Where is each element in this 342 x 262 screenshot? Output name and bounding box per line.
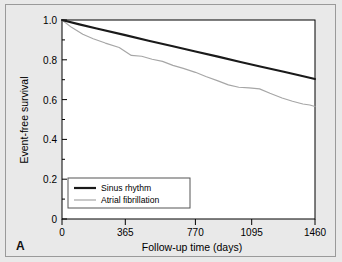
x-tick-label: 365 xyxy=(117,227,134,238)
y-tick-label: 1.0 xyxy=(43,15,57,26)
panel-label: A xyxy=(16,239,25,253)
y-axis-title: Event-free survival xyxy=(18,77,30,164)
y-tick-label: 0.2 xyxy=(43,174,57,185)
y-axis-tick-labels: 1.0 0.8 0.6 0.4 0.2 0 xyxy=(43,15,57,225)
y-tick-label: 0.4 xyxy=(43,134,57,145)
y-tick-label: 0.8 xyxy=(43,55,57,66)
legend-label-sinus-rhythm: Sinus rhythm xyxy=(101,183,151,193)
x-tick-label: 1460 xyxy=(304,227,327,238)
chart-legend: Sinus rhythm Atrial fibrillation xyxy=(68,178,190,208)
y-tick-label: 0 xyxy=(51,214,57,225)
x-tick-label: 0 xyxy=(59,227,65,238)
x-axis-tick-labels: 0 365 770 1095 1460 xyxy=(59,227,326,238)
survival-chart-svg: 1.0 0.8 0.6 0.4 0.2 0 Event-free surviva… xyxy=(0,0,342,262)
x-tick-label: 1095 xyxy=(241,227,264,238)
chart-canvas: 1.0 0.8 0.6 0.4 0.2 0 Event-free surviva… xyxy=(0,0,342,262)
x-axis-major-ticks xyxy=(62,219,315,225)
x-axis-title: Follow-up time (days) xyxy=(142,241,242,253)
x-tick-label: 770 xyxy=(187,227,204,238)
figure-panel: 1.0 0.8 0.6 0.4 0.2 0 Event-free surviva… xyxy=(0,0,342,262)
y-tick-label: 0.6 xyxy=(43,95,57,106)
legend-label-atrial-fibrillation: Atrial fibrillation xyxy=(101,195,159,205)
